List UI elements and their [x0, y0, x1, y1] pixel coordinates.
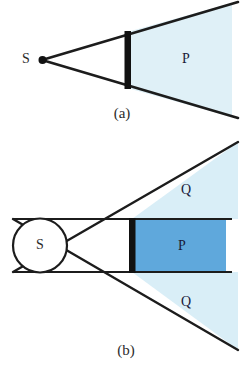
panel-b-caption: (b)	[117, 342, 135, 359]
panel-b-region-q-upper-fill	[132, 142, 238, 219]
panel-b-region-label-q-lower: Q	[181, 294, 191, 309]
panel-a-caption: (a)	[114, 105, 131, 122]
shadow-diagram-figure: S P (a) S P Q Q (b)	[0, 0, 242, 384]
panel-b-source-label: S	[36, 237, 44, 252]
panel-b-region-q-lower-fill	[132, 272, 238, 350]
panel-a-region-label-p: P	[182, 51, 190, 66]
panel-a-aperture-bar	[125, 31, 132, 89]
panel-b-aperture-bar	[129, 218, 136, 273]
panel-b-region-label-q-upper: Q	[181, 182, 191, 197]
panel-a: S P (a)	[22, 2, 238, 122]
panel-a-source-label: S	[22, 51, 30, 66]
panel-a-source-point-icon	[39, 56, 47, 64]
panel-b-region-label-p: P	[178, 238, 186, 253]
panel-b: S P Q Q (b)	[13, 142, 238, 359]
